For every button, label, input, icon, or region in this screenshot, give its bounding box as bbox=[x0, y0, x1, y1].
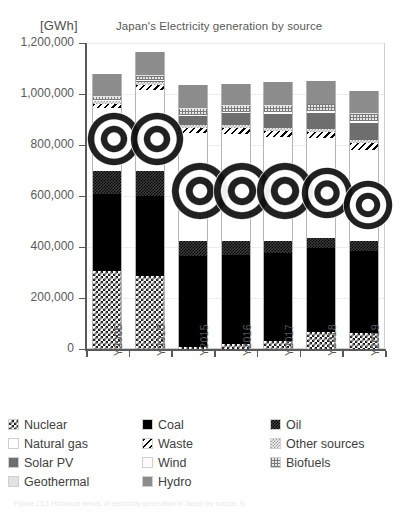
segment-solar-pv bbox=[350, 123, 378, 141]
legend-swatch-icon bbox=[270, 419, 281, 430]
legend-swatch-icon bbox=[270, 438, 281, 449]
legend-label: Nuclear bbox=[24, 418, 67, 432]
x-tick-mark bbox=[86, 351, 88, 357]
segment-natural-gas bbox=[350, 150, 378, 241]
legend-row: NuclearCoalOil bbox=[8, 415, 400, 434]
x-tick-mark bbox=[171, 351, 173, 357]
segment-coal bbox=[350, 251, 378, 333]
legend-label: Coal bbox=[158, 418, 184, 432]
legend-label: Other sources bbox=[286, 437, 365, 451]
segment-natural-gas bbox=[179, 133, 207, 241]
bar-y2015[interactable] bbox=[178, 85, 208, 349]
x-tick-label: Y2017 bbox=[283, 324, 295, 356]
legend-item-waste[interactable]: Waste bbox=[142, 437, 270, 451]
segment-solar-pv bbox=[264, 114, 292, 128]
segment-coal bbox=[307, 248, 335, 332]
segment-hydro bbox=[136, 52, 164, 75]
bar-y2005[interactable] bbox=[92, 74, 122, 349]
segment-hydro bbox=[222, 84, 250, 105]
segment-coal bbox=[93, 194, 121, 272]
segment-oil bbox=[136, 171, 164, 196]
legend-swatch-icon bbox=[142, 438, 153, 449]
x-tick-label: Y2010 bbox=[155, 324, 167, 356]
bar-y2017[interactable] bbox=[263, 82, 293, 349]
legend-item-nuclear[interactable]: Nuclear bbox=[8, 418, 142, 432]
legend-swatch-icon bbox=[8, 457, 19, 468]
segment-solar-pv bbox=[179, 116, 207, 125]
legend-label: Hydro bbox=[158, 475, 191, 489]
legend-item-other-sources[interactable]: Other sources bbox=[270, 437, 400, 451]
legend-row: GeothermalHydro bbox=[8, 472, 400, 491]
legend-swatch-icon bbox=[142, 476, 153, 487]
legend-swatch-icon bbox=[142, 457, 153, 468]
legend-item-wind[interactable]: Wind bbox=[142, 456, 270, 470]
chart-legend: NuclearCoalOilNatural gasWasteOther sour… bbox=[8, 415, 400, 493]
x-tick-label: Y2019 bbox=[369, 324, 381, 356]
segment-oil bbox=[93, 171, 121, 194]
x-tick-label: Y2005 bbox=[112, 324, 124, 356]
legend-swatch-icon bbox=[8, 476, 19, 487]
y-tick-label: 800,000 bbox=[0, 137, 74, 151]
legend-label: Natural gas bbox=[24, 437, 88, 451]
bar-y2010[interactable] bbox=[135, 52, 165, 349]
segment-solar-pv bbox=[222, 113, 250, 124]
segment-natural-gas bbox=[264, 137, 292, 241]
legend-label: Oil bbox=[286, 418, 301, 432]
bar-y2016[interactable] bbox=[221, 84, 251, 349]
y-tick-mark bbox=[79, 349, 86, 351]
legend-item-geothermal[interactable]: Geothermal bbox=[8, 475, 142, 489]
legend-item-coal[interactable]: Coal bbox=[142, 418, 270, 432]
segment-hydro bbox=[264, 82, 292, 105]
x-tick-mark bbox=[385, 351, 387, 357]
segment-hydro bbox=[350, 91, 378, 113]
legend-item-oil[interactable]: Oil bbox=[270, 418, 400, 432]
legend-label: Waste bbox=[158, 437, 193, 451]
legend-item-biofuels[interactable]: Biofuels bbox=[270, 456, 400, 470]
legend-row: Natural gasWasteOther sources bbox=[8, 434, 400, 453]
legend-item-natural-gas[interactable]: Natural gas bbox=[8, 437, 142, 451]
y-tick-mark bbox=[79, 43, 86, 45]
segment-natural-gas bbox=[136, 90, 164, 171]
segment-solar-pv bbox=[307, 113, 335, 129]
bar-y2018[interactable] bbox=[306, 81, 336, 349]
segment-biofuels bbox=[350, 114, 378, 121]
legend-item-hydro[interactable]: Hydro bbox=[142, 475, 270, 489]
y-tick-mark bbox=[79, 145, 86, 147]
x-tick-label: Y2016 bbox=[241, 324, 253, 356]
y-tick-mark bbox=[79, 196, 86, 198]
x-tick-mark bbox=[129, 351, 131, 357]
legend-label: Biofuels bbox=[286, 456, 330, 470]
figure-caption: Figure 13.1 Historical trends of electri… bbox=[14, 500, 394, 507]
legend-label: Wind bbox=[158, 456, 186, 470]
y-tick-label: 200,000 bbox=[0, 290, 74, 304]
legend-label: Geothermal bbox=[24, 475, 89, 489]
y-tick-label: 0 bbox=[0, 341, 74, 355]
legend-swatch-icon bbox=[142, 419, 153, 430]
segment-natural-gas bbox=[307, 138, 335, 239]
x-tick-mark bbox=[214, 351, 216, 357]
segment-oil bbox=[350, 241, 378, 251]
legend-row: Solar PVWindBiofuels bbox=[8, 453, 400, 472]
legend-label: Solar PV bbox=[24, 456, 73, 470]
legend-item-solar-pv[interactable]: Solar PV bbox=[8, 456, 142, 470]
figure-container: [GWh] Japan's Electricity generation by … bbox=[0, 0, 406, 515]
x-tick-mark bbox=[257, 351, 259, 357]
legend-swatch-icon bbox=[8, 419, 19, 430]
x-tick-label: Y2015 bbox=[198, 324, 210, 356]
y-tick-label: 1,200,000 bbox=[0, 35, 74, 49]
y-tick-label: 400,000 bbox=[0, 239, 74, 253]
segment-oil bbox=[264, 241, 292, 253]
segment-biofuels bbox=[307, 104, 335, 111]
segment-coal bbox=[136, 196, 164, 276]
segment-oil bbox=[307, 238, 335, 248]
x-tick-mark bbox=[300, 351, 302, 357]
y-tick-label: 1,000,000 bbox=[0, 86, 74, 100]
x-tick-mark bbox=[342, 351, 344, 357]
bar-y2019[interactable] bbox=[349, 91, 379, 349]
bar-group bbox=[86, 43, 385, 349]
y-tick-label: 600,000 bbox=[0, 188, 74, 202]
x-tick-label: Y2018 bbox=[326, 324, 338, 356]
segment-hydro bbox=[93, 74, 121, 96]
legend-swatch-icon bbox=[270, 457, 281, 468]
segment-oil bbox=[222, 241, 250, 255]
